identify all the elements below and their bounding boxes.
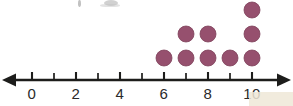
axis-tick-label-2: 2 — [72, 85, 81, 102]
axis-left-arrow-icon — [2, 74, 16, 87]
dot-10-2 — [244, 26, 260, 42]
axis-tick-label-6: 6 — [160, 85, 169, 102]
dot-stack-9 — [222, 50, 238, 66]
axis-tick-label-8: 8 — [204, 85, 213, 102]
dot-6-1 — [156, 50, 172, 66]
dot-stack-10 — [244, 2, 260, 66]
dot-stack-7 — [178, 26, 194, 66]
dot-8-1 — [200, 50, 216, 66]
axis-tick-label-0: 0 — [28, 85, 37, 102]
dot-stack-8 — [200, 26, 216, 66]
axis-tick-labels: 0246810 — [28, 85, 261, 102]
dot-stacks — [156, 2, 260, 66]
axis-tick-label-10: 10 — [243, 85, 261, 102]
axis-tick-label-4: 4 — [116, 85, 125, 102]
dot-7-2 — [178, 26, 194, 42]
dot-10-3 — [244, 2, 260, 18]
dot-10-1 — [244, 50, 260, 66]
dot-8-2 — [200, 26, 216, 42]
dot-7-1 — [178, 50, 194, 66]
dot-plot-chart: 0246810 — [0, 0, 293, 106]
axis-right-arrow-icon — [277, 74, 291, 87]
dot-9-1 — [222, 50, 238, 66]
dot-stack-6 — [156, 50, 172, 66]
